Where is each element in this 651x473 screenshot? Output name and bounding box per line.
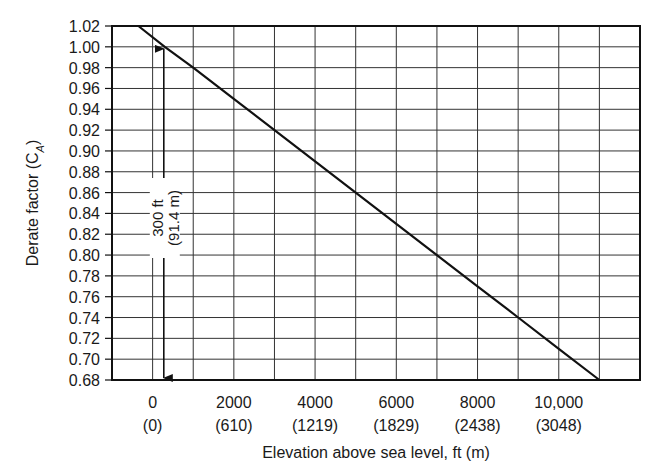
annotation-label-ft: 300 ft xyxy=(149,198,166,236)
x-tick-label-m: (3048) xyxy=(536,417,582,434)
y-tick-label: 0.92 xyxy=(69,122,100,139)
x-tick-label-m: (1829) xyxy=(373,417,419,434)
y-tick-label: 0.94 xyxy=(69,101,100,118)
x-tick-label-ft: 4000 xyxy=(297,394,333,411)
y-tick-label: 0.78 xyxy=(69,268,100,285)
y-tick-label: 0.96 xyxy=(69,80,100,97)
derate-factor-chart: 1.021.000.980.960.940.920.900.880.860.84… xyxy=(0,0,651,473)
annotation-label: 300 ft (91.4 m) xyxy=(149,178,182,258)
y-tick-label: 0.74 xyxy=(69,310,100,327)
x-tick-label-ft: 8000 xyxy=(460,394,496,411)
y-axis-ticks: 1.021.000.980.960.940.920.900.880.860.84… xyxy=(69,18,112,389)
y-tick-label: 0.68 xyxy=(69,372,100,389)
y-tick-label: 0.70 xyxy=(69,351,100,368)
y-tick-label: 0.84 xyxy=(69,205,100,222)
x-axis-label: Elevation above sea level, ft (m) xyxy=(262,444,490,461)
annotation-label-m: (91.4 m) xyxy=(165,190,182,246)
y-tick-label: 0.72 xyxy=(69,330,100,347)
plot-frame xyxy=(112,26,640,380)
y-tick-label: 0.88 xyxy=(69,164,100,181)
x-tick-label-m: (1219) xyxy=(292,417,338,434)
derate-line xyxy=(138,26,599,380)
elevation-300ft-annotation: 300 ft (91.4 m) xyxy=(149,49,182,378)
y-tick-label: 0.86 xyxy=(69,185,100,202)
x-tick-label-ft: 2000 xyxy=(216,394,252,411)
y-tick-label: 1.02 xyxy=(69,18,100,35)
x-tick-label-ft: 0 xyxy=(148,394,157,411)
y-tick-label: 0.90 xyxy=(69,143,100,160)
y-axis-label: Derate factor (CA) xyxy=(24,140,46,266)
x-tick-label-m: (0) xyxy=(143,417,163,434)
x-tick-label-m: (2438) xyxy=(454,417,500,434)
y-tick-label: 1.00 xyxy=(69,39,100,56)
x-tick-label-ft: 10,000 xyxy=(534,394,583,411)
y-tick-label: 0.98 xyxy=(69,60,100,77)
y-tick-label: 0.82 xyxy=(69,226,100,243)
grid-lines xyxy=(112,26,640,380)
x-axis-ticks: 0(0)2000(610)4000(1219)6000(1829)8000(24… xyxy=(143,394,584,434)
y-tick-label: 0.80 xyxy=(69,247,100,264)
x-tick-label-m: (610) xyxy=(215,417,252,434)
y-tick-label: 0.76 xyxy=(69,289,100,306)
x-tick-label-ft: 6000 xyxy=(379,394,415,411)
